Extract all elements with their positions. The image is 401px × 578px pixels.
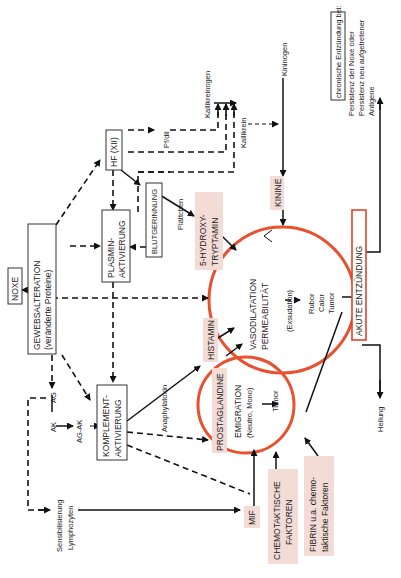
blutgerinnung-label: BLUTGERINNUNG	[150, 189, 159, 254]
emigration-label: EMIGRATION	[233, 385, 243, 438]
ag-ak-label: AG-AK	[75, 420, 84, 443]
emigration-tumor-label: Tumor	[271, 390, 280, 412]
prostaglandine-label: PROSTAGLANDINE	[215, 373, 225, 451]
ak-label: AK	[49, 422, 58, 432]
lymphozyten-label: Lymphozyten	[66, 506, 75, 550]
plaettchen-label: Plättchen	[176, 199, 185, 230]
chronisch-line-3: Antigene	[367, 86, 376, 116]
histamin-label: HISTAMIN	[206, 320, 216, 360]
permeabilitaet-label: PERMEABILITÄT	[260, 283, 270, 350]
chronisch-title: chronische Entzündung bei:	[334, 5, 343, 98]
inflammation-diagram: NOXE GEWEBSALTERATION (veränderte Protei…	[0, 0, 401, 578]
komplement-label-2: AKTIVIERUNG	[113, 399, 123, 457]
fibrin-label: FIBRIN u.a. chemo-	[308, 477, 318, 552]
akute-entzuendung-label: AKUTE ENTZÜNDUNG	[354, 246, 364, 336]
chronisch-line-1: Persistenz der Noxe oder	[347, 31, 356, 116]
faktoren-label: FAKTOREN	[284, 499, 294, 545]
anaphylatoxin-label: Anaphylatoxin	[160, 385, 169, 432]
hydroxy-label-2: TRYPTAMIN	[210, 218, 220, 266]
kallikrein-label: Kallikrein	[239, 118, 248, 148]
hf-label: HF (XII)	[109, 137, 119, 167]
hydroxy-label: 5-HYDROXY-	[198, 214, 208, 266]
pf-dil-label: Pf/dil	[162, 131, 171, 148]
chronisch-line-2: Persistenz neu aufgetretener	[357, 19, 366, 116]
ag-label: AG	[49, 392, 58, 403]
tumor-label: Tumor	[327, 292, 336, 314]
vasodilatation-label: VASODILATATION	[248, 279, 258, 350]
noxe-label: NOXE	[10, 277, 20, 301]
rubor-label: Rubor	[307, 293, 316, 314]
plasmin-label-2: AKTIVIERUNG	[117, 220, 127, 278]
chemotaktische-label: CHEMOTAKTISCHE	[272, 481, 282, 560]
kallikreinogen-label: Kallikreinogen	[203, 71, 212, 118]
sensibilisierung-label: Sensibilisierung	[55, 499, 64, 552]
komplement-label: KOMPLEMENT-	[101, 395, 111, 457]
plasmin-label: PLASMIN-	[106, 238, 116, 278]
mif-label: MIF	[247, 510, 257, 525]
heilung-label: Heilung	[376, 407, 385, 432]
fibrin-label-2: taktische Faktoren	[320, 482, 330, 552]
gewebsalteration-sub-label: (veränderte Proteine)	[43, 270, 53, 350]
gewebsalteration-label: GEWEBSALTERATION	[32, 261, 42, 350]
kininogen-label: Kininogen	[280, 43, 289, 76]
calor-label: Calor	[317, 294, 326, 312]
emigration-sub-label: (Neutro, Mono)	[245, 387, 254, 438]
exsudation-label: (Exsudation)	[285, 289, 294, 332]
kinine-label: KININE	[273, 178, 283, 207]
